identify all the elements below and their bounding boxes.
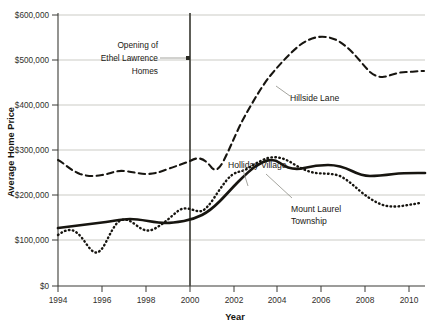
x-axis-ticks — [58, 286, 409, 292]
annotation-line-1: Opening of — [117, 40, 158, 50]
ytick-label-400000: $400,000 — [15, 101, 50, 110]
annotation-line-3: Homes — [132, 66, 158, 76]
xtick-label-1996: 1996 — [93, 295, 112, 305]
chart-canvas: $600,000 $500,000 $400,000 $300,000 $200… — [0, 0, 428, 328]
x-axis-title: Year — [225, 312, 245, 322]
xtick-label-1998: 1998 — [137, 295, 156, 305]
xtick-label-1994: 1994 — [49, 295, 68, 305]
xtick-label-2008: 2008 — [356, 295, 375, 305]
ytick-label-500000: $500,000 — [15, 56, 50, 65]
series-label-mount-laurel-line1: Mount Laurel — [291, 204, 341, 214]
gridlines — [58, 15, 425, 240]
ytick-label-600000: $600,000 — [15, 11, 50, 20]
annotation-opening-ethel-lawrence-homes: Opening of Ethel Lawrence Homes — [101, 40, 159, 76]
ytick-label-200000: $200,000 — [15, 191, 50, 200]
series-label-holliday-village: Holliday Village — [228, 160, 287, 170]
xtick-label-2000: 2000 — [181, 295, 200, 305]
xtick-label-2010: 2010 — [400, 295, 419, 305]
y-axis-tick-labels: $600,000 $500,000 $400,000 $300,000 $200… — [15, 11, 50, 291]
annotation-line-2: Ethel Lawrence — [101, 53, 159, 63]
home-price-line-chart: $600,000 $500,000 $400,000 $300,000 $200… — [0, 0, 428, 328]
xtick-label-2006: 2006 — [312, 295, 331, 305]
series-label-hillside-lane: Hillside Lane — [290, 93, 339, 103]
hillside-lane-leader-line — [276, 86, 290, 96]
ytick-label-0: $0 — [40, 282, 50, 291]
y-axis-title: Average Home Price — [6, 107, 16, 197]
annotation-leader-endpoint — [186, 56, 190, 60]
xtick-label-2002: 2002 — [225, 295, 244, 305]
y-axis-ticks — [52, 15, 58, 286]
xtick-label-2004: 2004 — [268, 295, 287, 305]
ytick-label-100000: $100,000 — [15, 236, 50, 245]
x-axis-tick-labels: 1994 1996 1998 2000 2002 2004 2006 2008 … — [49, 295, 419, 305]
series-label-mount-laurel-line2: Township — [291, 216, 327, 226]
mount-laurel-leader-line — [266, 174, 292, 198]
ytick-label-300000: $300,000 — [15, 146, 50, 155]
